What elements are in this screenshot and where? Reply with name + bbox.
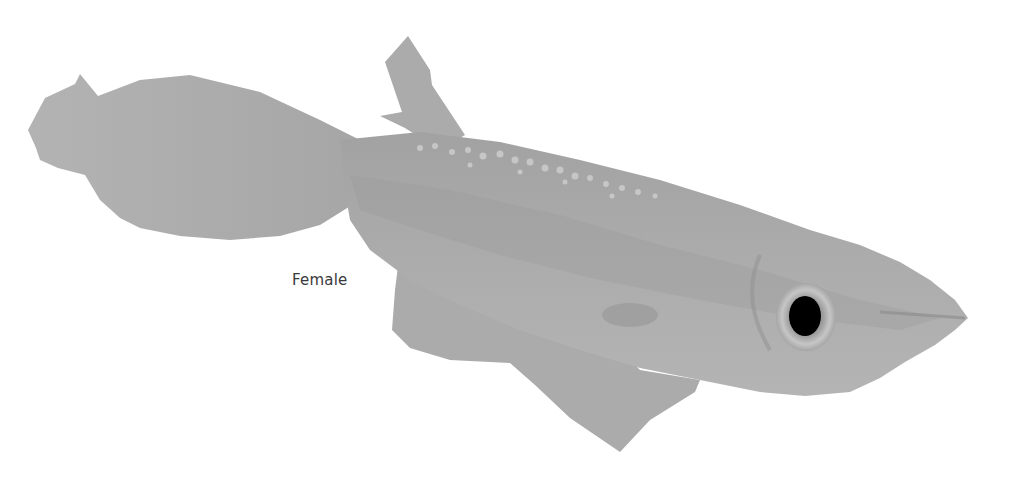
fish-illustration-canvas: Female xyxy=(0,0,1030,488)
sex-label: Female xyxy=(292,271,347,289)
eye-icon xyxy=(789,296,821,336)
caudal-fin xyxy=(28,74,360,240)
belly-spot xyxy=(602,303,658,327)
fish-illustration xyxy=(0,0,1030,488)
